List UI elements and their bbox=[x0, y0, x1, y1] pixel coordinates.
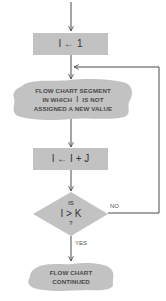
continued-line-1: FLOW CHART bbox=[30, 268, 112, 277]
segment-cloud-label: FLOW CHART SEGMENT IN WHICH I IS NOT ASS… bbox=[14, 86, 132, 113]
increment-box-label: I ← I + J bbox=[33, 153, 108, 164]
continued-line-2: CONTINUED bbox=[30, 277, 112, 286]
segment-line-2: IN WHICH I IS NOT bbox=[14, 95, 132, 104]
yes-edge-label: YES bbox=[75, 240, 87, 246]
segment-line-3: ASSIGNED A NEW VALUE bbox=[14, 104, 132, 113]
segment-line-2-pre: IN WHICH bbox=[42, 96, 72, 103]
no-edge-label: NO bbox=[110, 203, 119, 209]
segment-line-1: FLOW CHART SEGMENT bbox=[14, 86, 132, 95]
continued-cloud-label: FLOW CHART CONTINUED bbox=[30, 268, 112, 286]
decision-line-2: I > K bbox=[46, 208, 96, 219]
segment-variable: I bbox=[76, 94, 79, 104]
segment-line-2-post: IS NOT bbox=[82, 96, 103, 103]
decision-label: IS I > K ? bbox=[46, 199, 96, 228]
init-box-label: I ← 1 bbox=[33, 38, 108, 49]
decision-line-1: IS bbox=[46, 199, 96, 208]
decision-line-3: ? bbox=[46, 219, 96, 228]
